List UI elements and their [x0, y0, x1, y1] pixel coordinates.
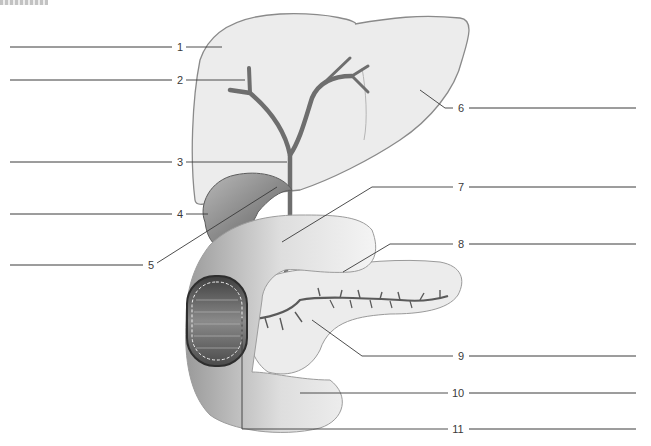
duodenum-cross-section	[187, 276, 247, 366]
cropped-header-text	[0, 0, 48, 5]
label-number-1: 1	[176, 41, 184, 53]
label-number-2: 2	[176, 74, 184, 86]
label-number-9: 9	[457, 350, 465, 362]
pancreas	[247, 260, 462, 374]
label-number-8: 8	[457, 238, 465, 250]
label-number-4: 4	[176, 208, 184, 220]
diagram-stage: 1234567891011	[0, 0, 651, 446]
label-number-5: 5	[147, 259, 155, 271]
label-number-3: 3	[176, 156, 184, 168]
label-number-7: 7	[457, 181, 465, 193]
label-number-11: 11	[451, 423, 464, 435]
anatomy-illustration	[0, 0, 651, 446]
label-number-10: 10	[451, 387, 465, 399]
label-number-6: 6	[457, 102, 465, 114]
